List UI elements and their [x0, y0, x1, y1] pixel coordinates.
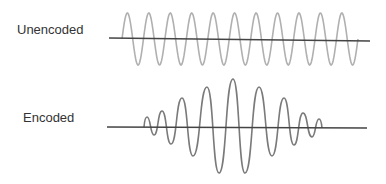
- encoded-signal: [107, 79, 367, 173]
- unencoded-signal: [109, 13, 370, 65]
- encoded-waveform: [144, 79, 322, 173]
- waveform-diagram: [0, 0, 386, 184]
- encoded-axis-line: [107, 127, 367, 128]
